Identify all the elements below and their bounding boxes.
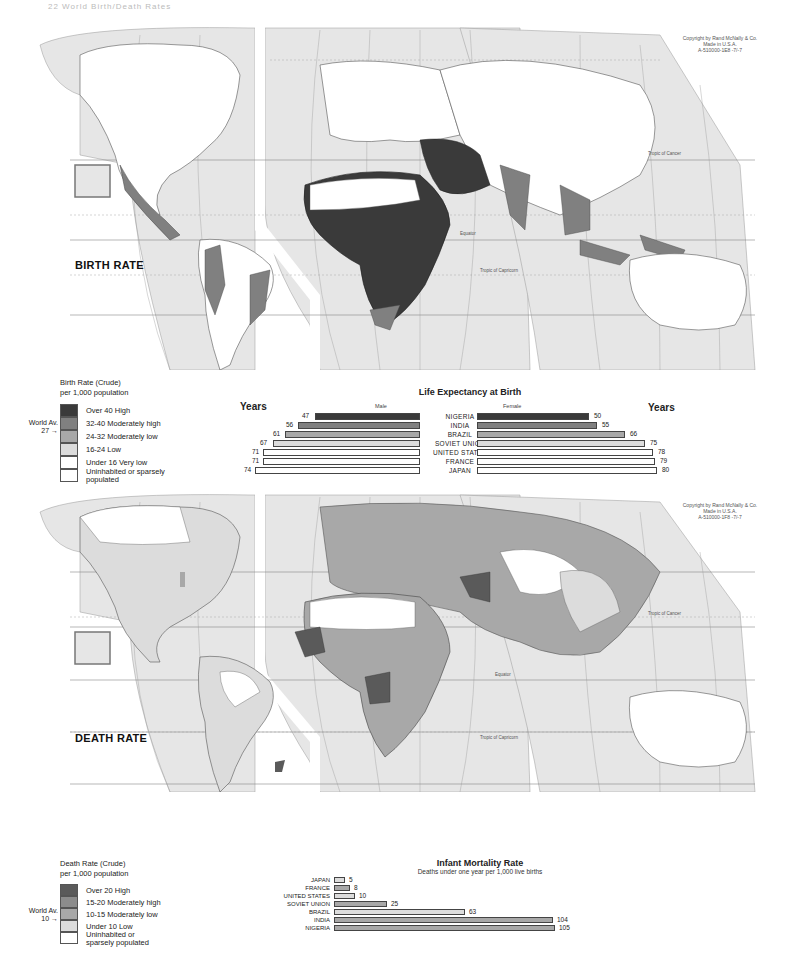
birth-rate-title: BIRTH RATE [75,259,144,271]
infant-mortality-title: Infant Mortality Rate [380,858,580,868]
bar-female-japan [477,467,657,474]
bar-male-nigeria [315,413,420,420]
bar-imr-india [334,917,553,923]
infant-mortality-chart: JAPAN FRANCE UNITED STATES SOVIET UNION … [260,877,580,957]
bar-imr-japan [334,877,345,883]
birth-rate-map: Tropic of Cancer Equator Tropic of Capri… [20,25,770,370]
legend-swatch [60,456,78,469]
svg-text:Tropic of Capricorn: Tropic of Capricorn [480,268,519,273]
bar-female-nigeria [477,413,589,420]
male-label: Male [375,403,387,409]
birth-map-copyright: Copyright by Rand McNally & Co. Made in … [670,35,770,53]
legend-swatch [60,443,78,456]
birth-rate-legend: Birth Rate (Crude) per 1,000 population … [60,378,230,483]
bar-male-france [263,458,420,465]
arrow-right-icon: → [51,915,58,922]
bar-male-japan [255,467,420,474]
life-expectancy-chart: 47 56 61 67 71 71 74 NIGERIA INDIA BRAZI… [230,412,690,484]
bar-female-brazil [477,431,625,438]
legend-swatch [60,417,78,430]
legend-swatch [60,884,78,896]
legend-swatch [60,896,78,908]
bar-imr-soviet-union [334,901,387,907]
female-label: Female [503,403,521,409]
bar-imr-nigeria [334,925,555,931]
bar-female-india [477,422,597,429]
page-header: 22 World Birth/Death Rates [48,2,171,11]
legend-swatch [60,932,78,944]
death-map-copyright: Copyright by Rand McNally & Co. Made in … [670,502,770,520]
legend-swatch [60,920,78,932]
years-label-left: Years [240,401,267,412]
bar-male-soviet-union [273,440,420,447]
death-rate-legend: Death Rate (Crude) per 1,000 population … [60,859,230,959]
bar-female-france [477,458,655,465]
legend-swatch [60,469,78,482]
birth-world-average: World Av. 27 → [20,419,58,435]
infant-mortality-subtitle: Deaths under one year per 1,000 live bir… [360,868,600,875]
legend-swatch [60,908,78,920]
bar-imr-united-states [334,893,355,899]
arrow-right-icon: → [51,427,58,434]
death-world-average: World Av. 10 → [20,907,58,923]
legend-swatch [60,404,78,417]
svg-text:Equator: Equator [495,672,511,677]
bar-imr-brazil [334,909,465,915]
life-expectancy-title: Life Expectancy at Birth [390,387,550,397]
bar-imr-france [334,885,350,891]
death-rate-map: Tropic of Cancer Equator Tropic of Capri… [20,492,770,792]
bar-male-united-states [263,449,420,456]
bar-female-united-states [477,449,653,456]
svg-text:Equator: Equator [460,231,476,236]
death-rate-title: DEATH RATE [75,732,147,744]
legend-swatch [60,430,78,443]
bar-male-brazil [285,431,420,438]
bar-male-india [298,422,420,429]
bar-female-soviet-union [477,440,645,447]
tropic-cancer-label: Tropic of Cancer [648,151,682,156]
svg-text:Tropic of Cancer: Tropic of Cancer [648,611,682,616]
svg-text:Tropic of Capricorn: Tropic of Capricorn [480,735,519,740]
